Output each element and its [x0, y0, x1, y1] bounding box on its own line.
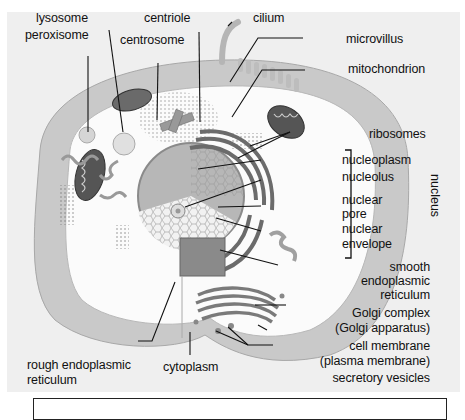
label-smooth-er-line1: smooth	[390, 260, 430, 274]
label-centrosome: centrosome	[120, 33, 184, 47]
label-microvillus: microvillus	[346, 32, 403, 46]
label-smooth-er-line2: endoplasmic	[361, 274, 430, 288]
label-cilium: cilium	[253, 11, 284, 25]
label-nucleolus: nucleolus	[342, 170, 394, 184]
label-cytoplasm: cytoplasm	[163, 360, 218, 374]
label-nucleus-bracket: nucleus	[428, 174, 442, 217]
label-centriole: centriole	[144, 11, 190, 25]
label-secretory-vesicles: secretory vesicles	[332, 371, 430, 385]
cilium-shape	[222, 22, 238, 62]
label-nuclear-pore-line1: nuclear	[342, 193, 382, 207]
label-nuclear-envelope-line2: envelope	[342, 237, 392, 251]
label-golgi-line2: (Golgi apparatus)	[335, 321, 430, 335]
label-smooth-er-line3: reticulum	[380, 288, 430, 302]
label-rough-er-line2: reticulum	[27, 373, 77, 387]
label-mitochondrion: mitochondrion	[348, 62, 425, 76]
label-rough-er-line1: rough endoplasmic	[27, 358, 131, 372]
label-golgi-line1: Golgi complex	[352, 306, 430, 320]
label-nucleoplasm: nucleoplasm	[342, 153, 411, 167]
label-ribosomes: ribosomes	[369, 127, 426, 141]
label-lysosome: lysosome	[36, 11, 88, 25]
label-cell-membrane-line1: cell membrane	[349, 339, 430, 353]
label-nuclear-envelope-line1: nuclear	[342, 222, 382, 236]
empty-caption-box	[33, 398, 447, 420]
lysosome-shape	[113, 133, 135, 155]
peroxisome-shape	[79, 127, 95, 143]
label-cell-membrane-line2: (plasma membrane)	[320, 354, 430, 368]
label-nuclear-pore-line2: pore	[342, 207, 367, 221]
label-peroxisome: peroxisome	[25, 28, 89, 42]
